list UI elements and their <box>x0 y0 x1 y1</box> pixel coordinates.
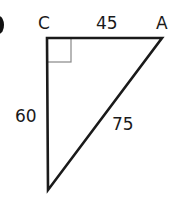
triangle-figure <box>0 0 173 200</box>
triangle <box>47 38 162 190</box>
side-label-top: 45 <box>96 15 118 32</box>
side-label-left: 60 <box>15 108 37 125</box>
vertex-label-a: A <box>156 15 168 32</box>
vertex-label-c: C <box>38 15 50 32</box>
right-angle-marker <box>47 38 71 62</box>
side-label-hypotenuse: 75 <box>112 116 134 133</box>
